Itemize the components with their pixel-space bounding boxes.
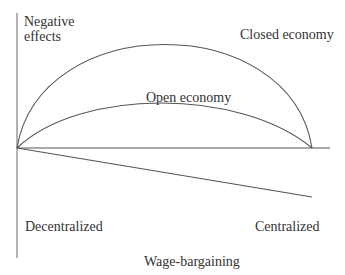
y-axis-label: Negative effects — [24, 14, 104, 44]
open-economy-label: Open economy — [146, 90, 231, 105]
closed-economy-label: Closed economy — [240, 27, 334, 42]
centralized-label: Centralized — [255, 219, 320, 234]
descending-line — [17, 148, 312, 197]
open-economy-curve — [17, 103, 312, 148]
x-axis-label: Wage-bargaining — [144, 254, 240, 269]
decentralized-label: Decentralized — [25, 219, 103, 234]
diagram: Negative effects Closed economy Open eco… — [0, 0, 345, 275]
